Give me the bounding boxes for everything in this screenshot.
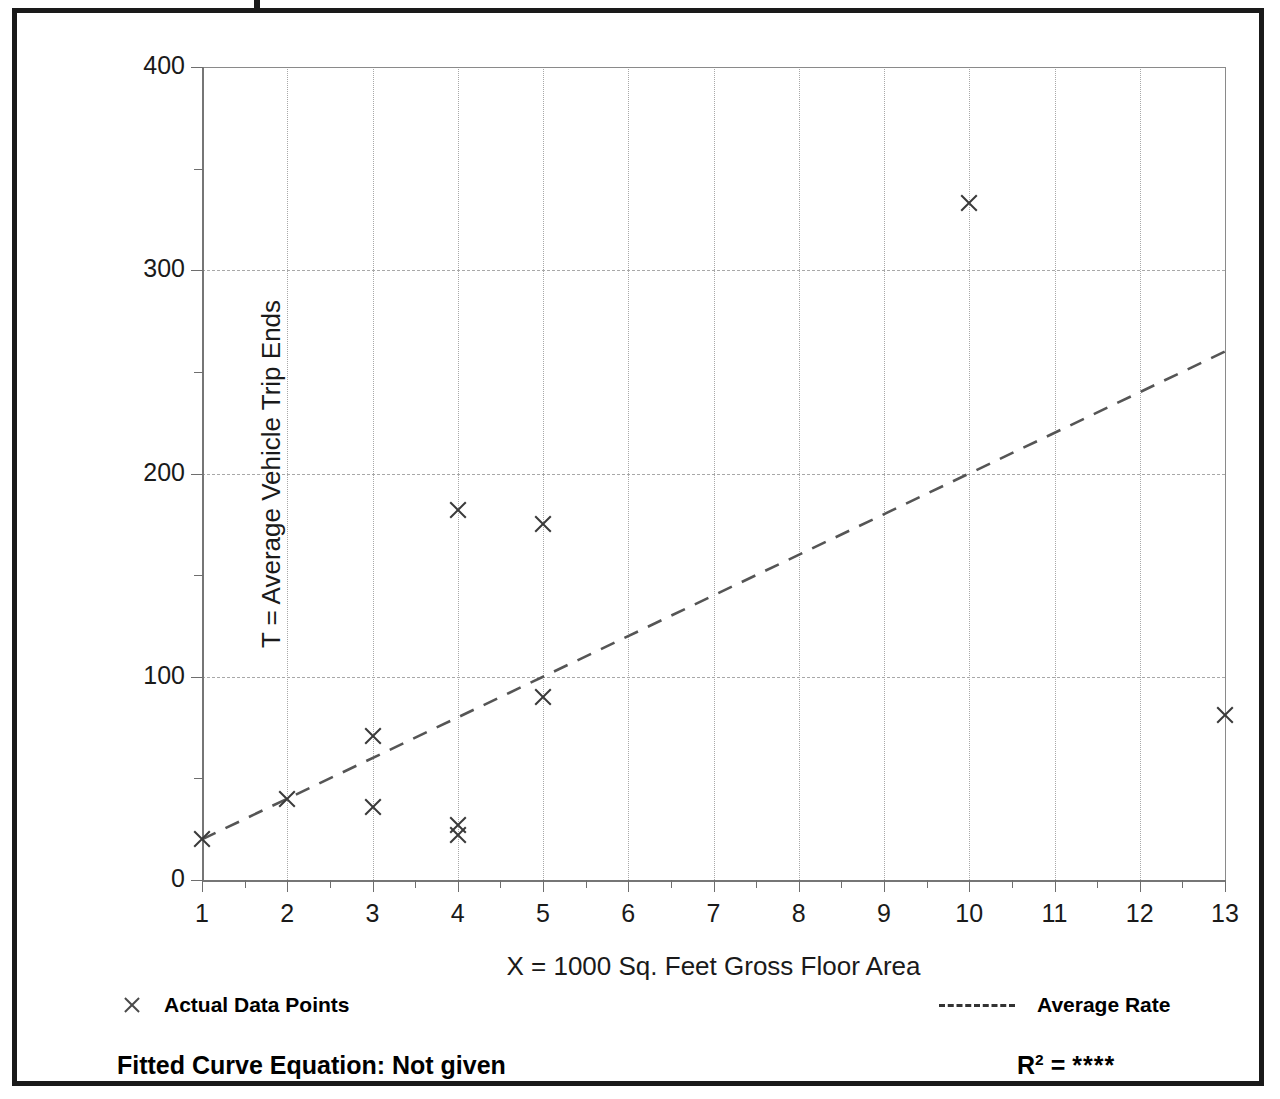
x-tick (714, 880, 715, 892)
x-tick (202, 880, 203, 892)
r-squared-equals: = (1051, 1051, 1066, 1079)
x-tick-minor (1012, 880, 1013, 888)
legend-item-actual-data-points: Actual Data Points (122, 993, 350, 1017)
x-tick-minor (500, 880, 501, 888)
average-rate-trendline (202, 67, 1225, 881)
x-tick-minor (1182, 880, 1183, 888)
x-tick (373, 880, 374, 892)
x-tick-minor (927, 880, 928, 888)
x-tick-label: 13 (1211, 899, 1239, 928)
dashed-line-icon (939, 1004, 1015, 1007)
x-tick-label: 11 (1042, 899, 1068, 928)
x-tick-minor (245, 880, 246, 888)
crop-mark (254, 0, 260, 8)
x-marker-icon (122, 995, 142, 1015)
x-tick-label: 3 (366, 899, 380, 928)
x-tick-label: 12 (1126, 899, 1154, 928)
x-tick-label: 6 (621, 899, 635, 928)
y-tick-label: 200 (143, 458, 185, 487)
r-squared-value: **** (1072, 1051, 1115, 1079)
x-tick-label: 4 (451, 899, 465, 928)
x-tick-minor (1097, 880, 1098, 888)
page-frame-border: 0100200300400 12345678910111213 T = Aver… (12, 8, 1264, 1086)
x-tick (543, 880, 544, 892)
legend-label-average-rate: Average Rate (1037, 993, 1170, 1017)
x-tick-minor (756, 880, 757, 888)
y-axis-title: T = Average Vehicle Trip Ends (256, 299, 287, 647)
x-tick-minor (415, 880, 416, 888)
x-tick-minor (671, 880, 672, 888)
x-tick (1055, 880, 1056, 892)
x-tick (287, 880, 288, 892)
x-tick (1225, 880, 1226, 892)
legend: Actual Data Points Average Rate (17, 993, 1269, 1033)
fitted-curve-equation: Fitted Curve Equation: Not given (117, 1051, 506, 1080)
x-tick-label: 1 (195, 899, 209, 928)
y-tick-label: 300 (143, 254, 185, 283)
x-tick-label: 5 (536, 899, 550, 928)
x-tick (628, 880, 629, 892)
chart-area: 0100200300400 12345678910111213 T = Aver… (17, 13, 1269, 1091)
legend-label-actual-data-points: Actual Data Points (164, 993, 350, 1017)
x-tick (1140, 880, 1141, 892)
x-tick-label: 10 (955, 899, 983, 928)
x-tick (969, 880, 970, 892)
x-tick-minor (841, 880, 842, 888)
plot-region: 0100200300400 12345678910111213 T = Aver… (202, 67, 1225, 880)
x-tick (799, 880, 800, 892)
r-squared-annotation: R2 = **** (1017, 1051, 1115, 1080)
legend-item-average-rate: Average Rate (939, 993, 1170, 1017)
x-tick-minor (330, 880, 331, 888)
x-tick-minor (586, 880, 587, 888)
y-tick-label: 100 (143, 661, 185, 690)
scanned-page: 0100200300400 12345678910111213 T = Aver… (0, 0, 1280, 1099)
r-squared-symbol: R (1017, 1051, 1035, 1079)
x-tick-label: 2 (280, 899, 294, 928)
y-tick-label: 0 (171, 864, 185, 893)
x-tick-label: 7 (707, 899, 721, 928)
r-squared-exponent: 2 (1035, 1051, 1044, 1068)
x-tick (884, 880, 885, 892)
x-axis-title: X = 1000 Sq. Feet Gross Floor Area (202, 951, 1225, 982)
plot-right-rule (1225, 67, 1226, 881)
x-tick-label: 8 (792, 899, 806, 928)
chart-footer: Fitted Curve Equation: Not given R2 = **… (17, 1051, 1269, 1095)
x-tick-label: 9 (877, 899, 891, 928)
x-tick (458, 880, 459, 892)
y-tick-label: 400 (143, 51, 185, 80)
trend-line-segment (202, 352, 1225, 840)
